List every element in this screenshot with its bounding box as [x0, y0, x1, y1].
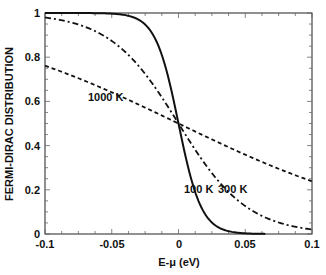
- label-100k: 100 K: [184, 183, 213, 195]
- y-tick-0.2: 0.2: [25, 184, 40, 196]
- y-tick-1: 1: [34, 7, 40, 19]
- x-tick-0: 0: [176, 238, 182, 250]
- fermi-dirac-chart: 0 0.2 0.4 0.6 0.8 1 -0.1 -0.05 0 0.05 0.…: [0, 0, 326, 275]
- x-tick-0.1: 0.1: [304, 238, 319, 250]
- curve-100k: [45, 13, 265, 234]
- label-300k: 300 K: [218, 183, 247, 195]
- x-tick-0.05: 0.05: [234, 238, 255, 250]
- label-1000k: 1000 K: [88, 91, 124, 103]
- x-tick-labels: -0.1 -0.05 0 0.05 0.1: [36, 238, 320, 250]
- curve-300k: [45, 18, 312, 230]
- y-tick-labels: 0 0.2 0.4 0.6 0.8 1: [25, 7, 41, 240]
- y-tick-0.8: 0.8: [25, 51, 40, 63]
- y-tick-0.4: 0.4: [25, 140, 41, 152]
- y-tick-0.6: 0.6: [25, 95, 40, 107]
- x-axis-title: E-μ (eV): [158, 256, 200, 268]
- x-tick-neg0.05: -0.05: [99, 238, 124, 250]
- y-axis-title: FERMI-DIRAC DISTRIBUTION: [3, 47, 15, 201]
- x-tick-neg0.1: -0.1: [36, 238, 55, 250]
